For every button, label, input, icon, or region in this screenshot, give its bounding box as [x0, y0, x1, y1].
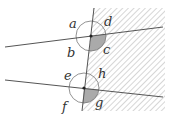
lower-intersection-point [82, 86, 85, 89]
label-c: c [103, 42, 111, 57]
label-g: g [95, 95, 103, 110]
upper-intersection-point [89, 34, 92, 37]
label-d: d [104, 14, 112, 29]
label-a: a [69, 16, 77, 31]
label-e: e [64, 68, 72, 83]
label-b: b [67, 45, 75, 60]
label-f: f [61, 99, 69, 114]
label-h: h [98, 66, 106, 81]
angle-diagram: a d b c e h f g [0, 0, 179, 121]
